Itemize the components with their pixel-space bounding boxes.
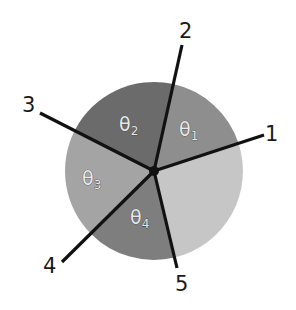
theta3-subscript: 3 xyxy=(94,178,102,192)
angle-sector-diagram: 1 2 3 4 5 θ1 θ2 θ3 θ4 xyxy=(0,0,296,310)
ray-label-4: 4 xyxy=(43,254,56,278)
theta4-symbol: θ xyxy=(130,206,142,228)
ray-label-3: 3 xyxy=(22,93,35,117)
theta1-subscript: 1 xyxy=(191,129,199,143)
theta3-symbol: θ xyxy=(82,167,94,189)
ray-label-2: 2 xyxy=(179,19,192,43)
center-dot xyxy=(149,166,159,176)
theta1-symbol: θ xyxy=(179,118,191,140)
ray-label-1: 1 xyxy=(265,122,278,146)
theta4-subscript: 4 xyxy=(142,217,150,231)
ray-label-5: 5 xyxy=(175,272,188,296)
theta2-symbol: θ xyxy=(119,113,131,135)
theta2-subscript: 2 xyxy=(131,124,139,138)
